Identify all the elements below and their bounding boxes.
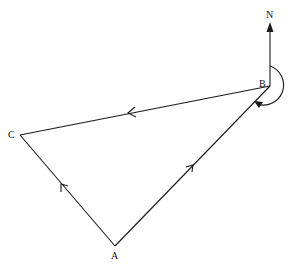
edge-b-c (20, 86, 270, 135)
label-point-b: B (259, 78, 266, 89)
north-arrow-icon (267, 22, 274, 32)
label-point-a: A (111, 250, 119, 261)
bearing-diagram: N B C A (0, 0, 296, 264)
arrow-c-a-icon (61, 184, 68, 192)
label-point-c: C (8, 129, 15, 140)
edge-c-a (20, 135, 115, 246)
label-north: N (266, 9, 273, 20)
